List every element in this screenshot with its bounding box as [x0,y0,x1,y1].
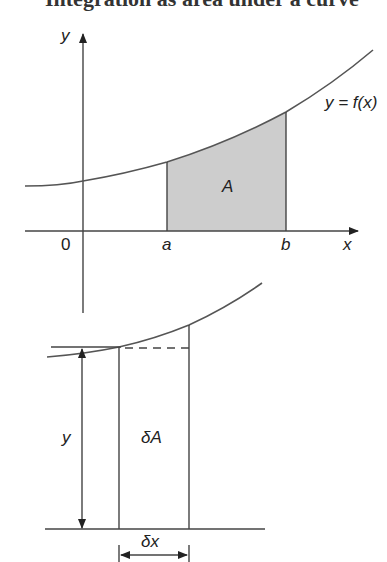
upper-bound-label: b [281,235,290,254]
y-axis-label: y [60,26,71,45]
x-axis-label: x [342,235,352,254]
strip-area-label: δA [141,428,162,447]
shaded-area-region [167,112,286,231]
width-label: δx [141,532,159,551]
curve-label: y = f(x) [324,93,377,112]
integration-area-diagram: y x 0 a b A y = f(x) y δA δx [0,0,387,562]
origin-label: 0 [61,235,70,254]
lower-bound-label: a [162,235,171,254]
area-label: A [221,177,233,196]
strip-curve [47,283,262,357]
height-label: y [61,428,72,447]
bottom-figure: y δA δx [45,283,265,562]
top-figure: y x 0 a b A y = f(x) [25,26,377,313]
